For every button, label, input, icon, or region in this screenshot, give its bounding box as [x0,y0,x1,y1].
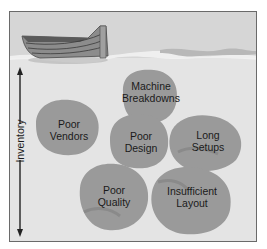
rock-label-poor-quality: Poor Quality [86,184,142,208]
rock-label-insufficient-layout: Insufficient Layout [156,185,228,209]
diagram-frame: Inventory Machine Breakdowns Poor Vendor… [9,11,257,242]
inventory-axis-label: Inventory [14,114,26,168]
rock-label-machine-breakdowns: Machine Breakdowns [118,80,184,104]
rock-label-long-setups: Long Setups [178,129,238,153]
rowboat-icon [22,26,108,64]
rock-label-poor-design: Poor Design [114,130,168,154]
rock-label-poor-vendors: Poor Vendors [42,118,96,142]
